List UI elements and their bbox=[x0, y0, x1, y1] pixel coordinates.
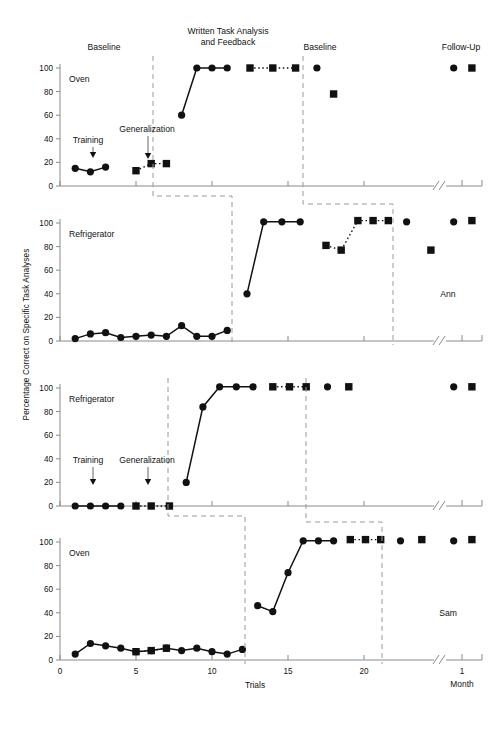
data-point-circle bbox=[233, 383, 240, 390]
x-tick-label: 15 bbox=[283, 667, 293, 676]
data-point-circle bbox=[450, 218, 457, 225]
y-tick-label: 100 bbox=[39, 64, 53, 73]
series-4 bbox=[347, 536, 385, 543]
data-point-circle bbox=[450, 537, 457, 544]
phase-label-followup: Follow-Up bbox=[442, 42, 481, 52]
data-point-square bbox=[338, 246, 345, 253]
data-point-circle bbox=[72, 165, 79, 172]
training-arrow-1 bbox=[90, 147, 96, 158]
data-point-circle bbox=[330, 537, 337, 544]
y-tick-label: 20 bbox=[44, 478, 54, 487]
y-tick-label: 40 bbox=[44, 290, 54, 299]
data-point-circle bbox=[397, 537, 404, 544]
chart-canvas: 020406080100Oven020406080100Refrigerator… bbox=[0, 0, 500, 729]
phase-label-generalization-1: Generalization bbox=[119, 124, 175, 134]
subject-label: Ann bbox=[440, 289, 456, 299]
data-point-square bbox=[163, 645, 170, 652]
data-point-circle bbox=[254, 602, 261, 609]
data-point-square bbox=[132, 167, 139, 174]
series-6 bbox=[450, 218, 457, 225]
data-point-circle bbox=[178, 647, 185, 654]
series-8 bbox=[468, 383, 475, 390]
panel-title: Oven bbox=[69, 548, 90, 558]
series-8 bbox=[468, 64, 475, 71]
data-point-square bbox=[468, 217, 475, 224]
series-4 bbox=[269, 383, 310, 390]
y-tick-label: 60 bbox=[44, 431, 54, 440]
y-tick-label: 80 bbox=[44, 562, 54, 571]
data-point-square bbox=[163, 160, 170, 167]
data-point-square bbox=[345, 383, 352, 390]
data-point-circle bbox=[178, 322, 185, 329]
phase-change-line bbox=[306, 378, 382, 664]
data-point-square bbox=[468, 383, 475, 390]
y-tick-label: 60 bbox=[44, 266, 54, 275]
data-point-circle bbox=[72, 651, 79, 658]
series-7 bbox=[450, 64, 457, 71]
x-tick-label: 10 bbox=[207, 667, 217, 676]
data-point-circle bbox=[199, 403, 206, 410]
data-point-circle bbox=[87, 502, 94, 509]
data-point-circle bbox=[178, 112, 185, 119]
y-tick-label: 80 bbox=[44, 88, 54, 97]
data-point-circle bbox=[269, 608, 276, 615]
figure-multiple-baseline: Percentage Correct on Specific Task Anal… bbox=[0, 0, 500, 729]
y-tick-label: 60 bbox=[44, 111, 54, 120]
x-tick-label: 5 bbox=[134, 667, 139, 676]
data-point-square bbox=[385, 217, 392, 224]
data-point-square bbox=[468, 64, 475, 71]
phase-label-treatment-line1: Written Task Analysis bbox=[188, 26, 269, 36]
series-4 bbox=[403, 218, 410, 225]
series-2 bbox=[132, 160, 170, 175]
phase-label-training-1: Training bbox=[73, 135, 104, 145]
y-tick-label: 80 bbox=[44, 408, 54, 417]
phase-change-line bbox=[168, 378, 245, 664]
data-point-circle bbox=[313, 64, 320, 71]
data-point-square bbox=[269, 383, 276, 390]
data-point-square bbox=[354, 217, 361, 224]
series-5 bbox=[313, 64, 320, 71]
data-point-square bbox=[132, 648, 139, 655]
data-point-circle bbox=[163, 333, 170, 340]
phase-change-line bbox=[303, 56, 393, 345]
subject-label: Sam bbox=[439, 608, 457, 618]
x-axis-break-label: Month bbox=[450, 679, 474, 689]
y-tick-label: 0 bbox=[48, 502, 53, 511]
data-point-circle bbox=[450, 64, 457, 71]
panel-2: 020406080100RefrigeratorAnn bbox=[39, 217, 482, 346]
data-point-square bbox=[377, 536, 384, 543]
data-point-circle bbox=[243, 290, 250, 297]
data-point-circle bbox=[102, 329, 109, 336]
y-tick-label: 20 bbox=[44, 158, 54, 167]
data-point-circle bbox=[117, 502, 124, 509]
data-point-circle bbox=[193, 645, 200, 652]
data-point-circle bbox=[87, 640, 94, 647]
data-point-circle bbox=[297, 218, 304, 225]
data-point-square bbox=[292, 64, 299, 71]
data-point-square bbox=[322, 242, 329, 249]
data-point-circle bbox=[117, 334, 124, 341]
x-tick-label: 0 bbox=[58, 667, 63, 676]
series-3 bbox=[254, 537, 337, 615]
series-3 bbox=[322, 217, 392, 254]
y-tick-label: 100 bbox=[39, 384, 53, 393]
series-1 bbox=[72, 640, 246, 658]
y-tick-label: 0 bbox=[48, 182, 53, 191]
data-point-circle bbox=[260, 218, 267, 225]
data-point-circle bbox=[148, 332, 155, 339]
data-point-circle bbox=[278, 218, 285, 225]
panel-4: 020406080100OvenSam bbox=[39, 536, 482, 665]
data-point-square bbox=[166, 502, 173, 509]
y-axis-label: Percentage Correct on Specific Task Anal… bbox=[22, 225, 31, 445]
y-tick-label: 40 bbox=[44, 609, 54, 618]
data-point-circle bbox=[300, 537, 307, 544]
series-1 bbox=[72, 164, 110, 176]
data-point-circle bbox=[87, 330, 94, 337]
data-point-circle bbox=[249, 383, 256, 390]
x-tick-label-followup: 1 bbox=[460, 667, 465, 676]
data-point-circle bbox=[102, 502, 109, 509]
y-tick-label: 20 bbox=[44, 632, 54, 641]
series-3 bbox=[183, 383, 257, 486]
series-2 bbox=[132, 502, 173, 509]
phase-label-training-2: Training bbox=[73, 455, 104, 465]
